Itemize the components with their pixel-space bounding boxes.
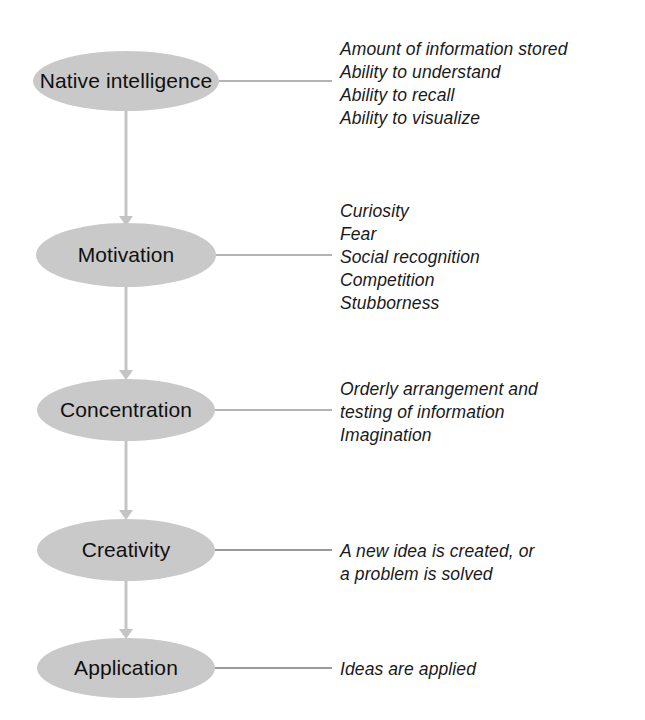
node-label-motivation: Motivation — [78, 243, 175, 267]
connector-native-intelligence-to-motivation — [119, 111, 133, 226]
annotation-native-intelligence: Amount of information stored Ability to … — [340, 38, 568, 130]
connector-concentration-to-creativity — [119, 441, 133, 520]
annotation-creativity: A new idea is created, or a problem is s… — [340, 540, 534, 586]
connector-motivation-to-concentration — [119, 287, 133, 380]
leader-line-group — [215, 81, 332, 668]
annotation-motivation: Curiosity Fear Social recognition Compet… — [340, 200, 480, 315]
annotation-concentration: Orderly arrangement and testing of infor… — [340, 378, 538, 447]
node-label-application: Application — [74, 656, 178, 680]
connector-creativity-to-application — [119, 581, 133, 639]
annotation-application: Ideas are applied — [340, 658, 476, 681]
node-label-concentration: Concentration — [60, 398, 192, 422]
flow-diagram-canvas: Native intelligence Motivation Concentra… — [0, 0, 645, 720]
node-label-native-intelligence: Native intelligence — [40, 69, 212, 93]
node-label-creativity: Creativity — [82, 538, 171, 562]
